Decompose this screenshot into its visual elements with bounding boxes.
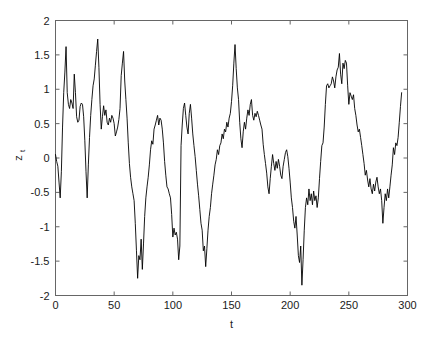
y-tick-label: -1.5 (31, 255, 50, 267)
y-tick-label: -1 (40, 221, 50, 233)
line-chart: 050100150200250300 -2-1.5-1-0.500.511.52… (0, 0, 430, 339)
y-axis-title-main: z (12, 155, 24, 161)
x-tick-label: 200 (281, 299, 299, 311)
y-tick-label: 0.5 (34, 118, 49, 130)
y-tick-label: -2 (40, 290, 50, 302)
x-tick-label: 300 (398, 299, 416, 311)
y-tick-label: 2 (43, 15, 49, 27)
x-tick-label: 100 (164, 299, 182, 311)
y-tick-label: 0 (43, 152, 49, 164)
y-tick-label: 1 (43, 83, 49, 95)
x-tick-label: 250 (340, 299, 358, 311)
figure-container: 050100150200250300 -2-1.5-1-0.500.511.52… (0, 0, 430, 339)
y-tick-label: 1.5 (34, 49, 49, 61)
x-tick-label: 0 (52, 299, 58, 311)
chart-background (0, 0, 430, 339)
y-tick-label: -0.5 (31, 186, 50, 198)
x-tick-label: 50 (108, 299, 120, 311)
x-axis-title: t (230, 318, 233, 330)
x-tick-label: 150 (222, 299, 240, 311)
